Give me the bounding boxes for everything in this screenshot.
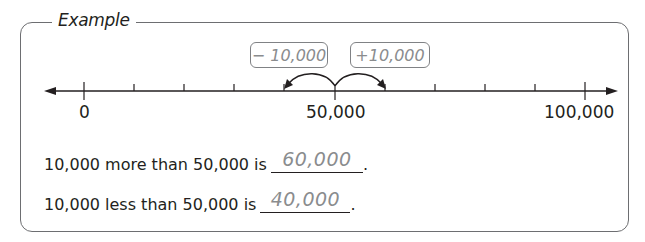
period: .	[350, 195, 355, 214]
plus-10000-label: +10,000	[355, 46, 424, 65]
plus-hop-arc	[335, 74, 382, 86]
minus-10000-box: − 10,000	[250, 42, 328, 68]
sentence-more: 10,000 more than 50,000 is 60,000 .	[44, 152, 368, 174]
answer-less: 40,000	[271, 188, 340, 210]
left-arrow-icon	[44, 87, 56, 95]
answer-blank-less[interactable]: 40,000	[260, 192, 350, 213]
right-arrow-icon	[606, 87, 618, 95]
period: .	[363, 155, 368, 174]
answer-more: 60,000	[282, 148, 351, 170]
sentence-less: 10,000 less than 50,000 is 40,000 .	[44, 192, 356, 214]
label-50000: 50,000	[306, 102, 365, 122]
plus-10000-box: +10,000	[350, 42, 430, 68]
minus-hop-arc	[288, 74, 335, 86]
sentence-more-prompt: 10,000 more than 50,000 is	[44, 155, 267, 174]
minus-10000-label: − 10,000	[252, 46, 326, 65]
label-100000: 100,000	[544, 102, 614, 122]
answer-blank-more[interactable]: 60,000	[271, 152, 363, 173]
label-0: 0	[79, 102, 90, 122]
sentence-less-prompt: 10,000 less than 50,000 is	[44, 195, 256, 214]
